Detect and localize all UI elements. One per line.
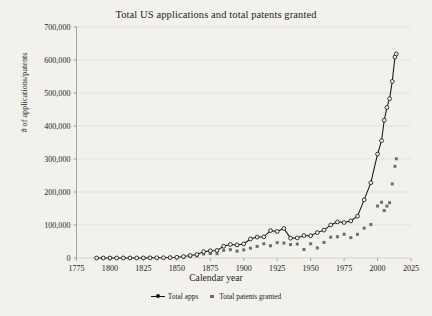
data-point xyxy=(391,182,394,185)
data-point xyxy=(385,106,389,110)
plot-area: 0100,000200,000300,000400,000500,000600,… xyxy=(0,0,432,316)
data-point xyxy=(222,244,226,248)
x-axis-title: Calendar year xyxy=(0,272,432,283)
legend-label: Total apps xyxy=(168,292,198,301)
data-point xyxy=(135,256,139,260)
data-point xyxy=(356,214,360,218)
square-marker-icon xyxy=(209,293,216,300)
data-point xyxy=(168,256,172,260)
y-tick-label: 300,000 xyxy=(44,155,70,164)
data-point xyxy=(269,229,273,233)
y-tick-label: 200,000 xyxy=(44,188,70,197)
data-point xyxy=(390,79,394,83)
data-point xyxy=(385,205,388,208)
data-point xyxy=(296,243,299,246)
data-point xyxy=(249,247,252,250)
data-point xyxy=(175,255,179,259)
data-point xyxy=(302,248,305,251)
data-point xyxy=(235,243,239,247)
y-tick-label: 400,000 xyxy=(44,122,70,131)
data-point xyxy=(349,219,353,223)
data-point xyxy=(336,235,339,238)
data-point xyxy=(329,223,333,227)
data-point xyxy=(236,250,239,253)
y-axis-title: # of applications/patents xyxy=(20,13,29,173)
data-point xyxy=(380,201,383,204)
data-point xyxy=(108,256,112,260)
data-point xyxy=(376,205,379,208)
legend-label: Total patents granted xyxy=(219,292,281,301)
data-point xyxy=(256,245,259,248)
data-point xyxy=(388,201,391,204)
data-point xyxy=(115,256,119,260)
data-point xyxy=(380,139,384,143)
data-point xyxy=(195,253,199,257)
data-point xyxy=(316,246,319,249)
data-point xyxy=(295,236,299,240)
data-point xyxy=(282,227,286,231)
y-tick-label: 500,000 xyxy=(44,89,70,98)
data-point xyxy=(323,241,326,244)
data-point xyxy=(228,243,232,247)
data-point xyxy=(309,242,312,245)
y-tick-label: 600,000 xyxy=(44,56,70,65)
data-point xyxy=(182,255,186,259)
data-point xyxy=(101,256,105,260)
data-point xyxy=(282,242,285,245)
series-total-apps xyxy=(95,52,399,260)
legend-item-total-apps: Total apps xyxy=(151,292,198,301)
data-point xyxy=(262,242,265,245)
series-total-patents-granted xyxy=(95,157,398,259)
data-point xyxy=(336,220,340,224)
data-point xyxy=(342,221,346,225)
data-point xyxy=(276,241,279,244)
legend-item-total-patents-granted: Total patents granted xyxy=(209,292,281,301)
data-point xyxy=(162,256,166,260)
data-point xyxy=(222,249,225,252)
data-point xyxy=(343,233,346,236)
data-point xyxy=(229,248,232,251)
data-point xyxy=(395,157,398,160)
data-point xyxy=(369,181,373,185)
data-point xyxy=(369,223,372,226)
data-point xyxy=(188,254,192,258)
data-point xyxy=(363,227,366,230)
data-point xyxy=(376,152,380,156)
y-tick-label: 700,000 xyxy=(44,23,70,32)
data-point xyxy=(383,209,386,212)
data-point xyxy=(121,256,125,260)
data-point xyxy=(142,256,146,260)
data-point xyxy=(394,52,398,56)
data-point xyxy=(388,97,392,101)
y-tick-label: 100,000 xyxy=(44,221,70,230)
data-point xyxy=(148,256,152,260)
data-point xyxy=(289,243,292,246)
data-point xyxy=(349,236,352,239)
data-point xyxy=(302,234,306,238)
data-point xyxy=(275,230,279,234)
data-point xyxy=(322,228,326,232)
data-point xyxy=(255,235,259,239)
data-point xyxy=(382,118,386,122)
data-point xyxy=(269,244,272,247)
data-point xyxy=(202,250,206,254)
data-point xyxy=(242,248,245,251)
series-line xyxy=(97,54,397,258)
data-point xyxy=(215,249,219,253)
data-point xyxy=(315,231,319,235)
data-point xyxy=(128,256,132,260)
data-point xyxy=(242,242,246,246)
data-point xyxy=(289,236,293,240)
chart-figure: Total US applications and total patents … xyxy=(0,0,432,316)
data-point xyxy=(249,237,253,241)
line-marker-icon xyxy=(151,293,165,300)
data-point xyxy=(208,249,212,253)
data-point xyxy=(95,256,99,260)
data-point xyxy=(329,236,332,239)
data-point xyxy=(356,233,359,236)
data-point xyxy=(155,256,159,260)
y-tick-label: 0 xyxy=(66,254,70,263)
data-point xyxy=(309,234,313,238)
data-point xyxy=(262,235,266,239)
data-point xyxy=(362,198,366,202)
